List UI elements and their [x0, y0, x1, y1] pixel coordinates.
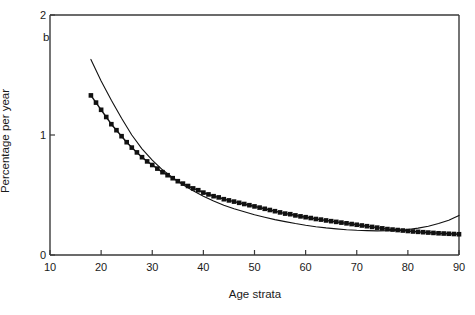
data-point-marker — [232, 199, 237, 204]
data-point-marker — [130, 145, 135, 150]
data-point-marker — [170, 176, 175, 181]
data-point-marker — [344, 221, 349, 226]
x-tick-label: 50 — [248, 262, 260, 273]
data-point-marker — [385, 227, 390, 232]
y-axis-title: Percentage per year — [0, 89, 11, 193]
data-point-marker — [268, 208, 273, 213]
data-point-marker — [303, 215, 308, 220]
x-tick-label: 70 — [351, 262, 363, 273]
data-point-marker — [237, 201, 242, 206]
x-tick-label: 30 — [146, 262, 158, 273]
x-tick-label: 20 — [95, 262, 107, 273]
series-observed — [89, 93, 462, 236]
data-point-marker — [262, 207, 267, 212]
data-point-marker — [452, 232, 457, 237]
data-point-marker — [400, 228, 405, 233]
x-tick-label: 40 — [197, 262, 209, 273]
data-point-marker — [222, 197, 227, 202]
data-point-marker — [140, 155, 145, 160]
data-point-marker — [416, 230, 421, 235]
data-point-marker — [324, 218, 329, 223]
data-point-marker — [104, 115, 109, 120]
x-tick-label: 90 — [453, 262, 465, 273]
data-point-marker — [242, 202, 247, 207]
data-point-marker — [273, 209, 278, 214]
panel-label: b — [43, 31, 49, 43]
data-point-marker — [441, 231, 446, 236]
data-point-marker — [252, 204, 257, 209]
data-point-marker — [216, 195, 221, 200]
data-point-marker — [293, 213, 298, 218]
x-axis-title: Age strata — [229, 288, 281, 300]
data-point-marker — [457, 232, 462, 237]
data-point-marker — [160, 170, 165, 175]
data-point-marker — [94, 100, 99, 105]
data-point-marker — [201, 190, 206, 195]
plot-frame — [50, 15, 459, 255]
data-point-marker — [426, 230, 431, 235]
series-line-fitted — [91, 59, 459, 230]
data-point-marker — [431, 231, 436, 236]
data-point-marker — [135, 150, 140, 155]
data-point-marker — [89, 93, 94, 98]
data-point-marker — [247, 203, 252, 208]
data-point-marker — [283, 211, 288, 216]
x-tick-label: 80 — [402, 262, 414, 273]
data-point-marker — [308, 216, 313, 221]
data-point-marker — [186, 184, 191, 189]
y-tick-label: 1 — [40, 130, 46, 141]
data-point-marker — [114, 128, 119, 133]
data-point-marker — [406, 229, 411, 234]
data-point-marker — [446, 231, 451, 236]
y-tick-label: 2 — [40, 10, 46, 21]
data-point-marker — [196, 188, 201, 193]
figure-panel-b: b Age strata Percentage per year 1020304… — [0, 0, 475, 315]
data-point-marker — [390, 227, 395, 232]
data-point-marker — [99, 108, 104, 113]
data-point-marker — [109, 122, 114, 127]
data-point-marker — [349, 222, 354, 227]
data-point-marker — [176, 179, 181, 184]
data-point-marker — [191, 186, 196, 191]
data-point-marker — [421, 230, 426, 235]
data-point-marker — [380, 226, 385, 231]
data-point-marker — [298, 214, 303, 219]
data-point-marker — [227, 198, 232, 203]
x-tick-label: 10 — [44, 262, 56, 273]
data-point-marker — [155, 166, 160, 171]
data-point-marker — [339, 220, 344, 225]
data-point-marker — [145, 159, 150, 164]
data-point-marker — [257, 205, 262, 210]
data-point-marker — [124, 140, 129, 145]
data-point-marker — [365, 224, 370, 229]
data-point-marker — [278, 210, 283, 215]
data-point-marker — [334, 220, 339, 225]
data-point-marker — [211, 194, 216, 199]
data-point-marker — [411, 229, 416, 234]
data-point-marker — [165, 173, 170, 178]
data-point-marker — [370, 225, 375, 230]
data-point-marker — [319, 217, 324, 222]
data-point-marker — [181, 181, 186, 186]
data-point-marker — [314, 217, 319, 222]
data-point-marker — [375, 225, 380, 230]
data-point-marker — [329, 219, 334, 224]
data-point-marker — [395, 228, 400, 233]
data-point-marker — [354, 222, 359, 227]
data-point-marker — [119, 134, 124, 139]
data-point-marker — [150, 163, 155, 168]
x-tick-label: 60 — [300, 262, 312, 273]
data-point-marker — [360, 223, 365, 228]
data-point-marker — [288, 212, 293, 217]
axis-ticks — [50, 15, 459, 255]
y-tick-label: 0 — [40, 250, 46, 261]
data-point-marker — [206, 192, 211, 197]
data-point-marker — [436, 231, 441, 236]
